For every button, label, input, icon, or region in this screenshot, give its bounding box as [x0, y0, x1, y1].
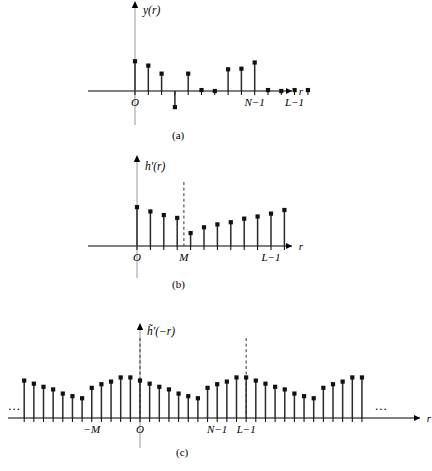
stem-marker	[321, 386, 325, 390]
stem-marker	[282, 208, 286, 212]
stem-marker	[146, 63, 150, 67]
stem-marker	[148, 382, 152, 386]
stem-marker	[279, 89, 283, 93]
x-axis-arrow	[286, 88, 292, 94]
y-axis-arrow	[137, 323, 143, 330]
stem-marker	[331, 382, 335, 386]
stem-marker	[160, 72, 164, 76]
stem-marker	[283, 387, 287, 391]
y-axis-arrow	[134, 155, 140, 162]
stem-marker	[119, 375, 123, 379]
stem-marker	[135, 205, 139, 209]
stem-marker	[177, 391, 181, 395]
stem-marker	[51, 387, 55, 391]
stem-marker	[173, 105, 177, 109]
stem-marker	[41, 385, 45, 389]
stem-marker	[80, 396, 84, 400]
stem-marker	[167, 387, 171, 391]
axis-tick-label: L−1	[236, 423, 256, 435]
stem-marker	[213, 89, 217, 93]
stem-marker	[61, 391, 65, 395]
y-axis-label: y(r)	[142, 4, 160, 17]
panel-a: ry(r)ON−1L−1 (a)	[0, 0, 432, 150]
stem-marker	[90, 386, 94, 390]
stem-marker	[254, 378, 258, 382]
panel-b-caption: (b)	[172, 278, 185, 290]
stem-marker	[234, 375, 238, 379]
stem-marker	[242, 217, 246, 221]
stem-marker	[128, 375, 132, 379]
stem-marker	[253, 60, 257, 64]
y-axis-label: h̃′(−r)	[147, 324, 175, 338]
stem-marker	[186, 394, 190, 398]
y-axis-label: h′(r)	[145, 160, 166, 173]
axis-tick-label: O	[136, 423, 144, 435]
panel-c: rh̃′(−r)−MON−1L−1...... (c)	[0, 298, 432, 471]
axis-tick-label: O	[133, 251, 141, 263]
panel-c-plot: rh̃′(−r)−MON−1L−1......	[0, 298, 432, 471]
stem-marker	[186, 72, 190, 76]
stem-marker	[269, 212, 273, 216]
stem-marker	[306, 88, 310, 92]
x-axis-label: r	[299, 240, 304, 252]
x-axis-arrow	[286, 243, 292, 249]
stem-marker	[215, 382, 219, 386]
stem-marker	[341, 380, 345, 384]
stem-marker	[302, 394, 306, 398]
y-axis-arrow	[132, 1, 138, 8]
stem-marker	[196, 396, 200, 400]
stem-marker	[226, 67, 230, 71]
stem-marker	[263, 382, 267, 386]
stem-marker	[70, 394, 74, 398]
x-axis-arrow	[414, 415, 420, 421]
stem-marker	[266, 88, 270, 92]
stem-marker	[162, 213, 166, 217]
stem-marker	[138, 378, 142, 382]
axis-tick-label: N−1	[244, 96, 265, 108]
stem-marker	[32, 382, 36, 386]
stem-marker	[229, 220, 233, 224]
stem-marker	[273, 385, 277, 389]
panel-b: rh′(r)OML−1 (b)	[0, 150, 432, 298]
stem-marker	[109, 380, 113, 384]
stem-marker	[148, 209, 152, 213]
stem-marker	[256, 214, 260, 218]
axis-tick-label: N−1	[206, 423, 227, 435]
stem-marker	[157, 385, 161, 389]
stem-marker	[293, 88, 297, 92]
stem-marker	[239, 67, 243, 71]
panel-a-plot: ry(r)ON−1L−1	[0, 0, 432, 150]
stem-marker	[22, 378, 26, 382]
axis-tick-label: O	[131, 96, 139, 108]
stem-marker	[360, 375, 364, 379]
stem-marker	[205, 386, 209, 390]
axis-tick-label: L−1	[260, 251, 280, 263]
axis-tick-label: L−1	[284, 96, 304, 108]
stem-marker	[225, 380, 229, 384]
stem-marker	[350, 375, 354, 379]
panel-c-caption: (c)	[176, 446, 188, 458]
stem-marker	[175, 216, 179, 220]
stem-marker	[189, 231, 193, 235]
stem-marker	[292, 391, 296, 395]
axis-tick-label: M	[178, 251, 189, 263]
stem-marker	[99, 382, 103, 386]
stem-marker	[133, 59, 137, 63]
ellipsis: ...	[8, 398, 21, 413]
stem-marker	[312, 396, 316, 400]
panel-a-caption: (a)	[172, 129, 184, 141]
panel-b-plot: rh′(r)OML−1	[0, 150, 432, 298]
stem-marker	[202, 225, 206, 229]
stem-marker	[215, 222, 219, 226]
stem-marker	[199, 88, 203, 92]
x-axis-label: r	[427, 412, 432, 424]
axis-tick-label: −M	[83, 423, 100, 435]
stem-marker	[244, 375, 248, 379]
ellipsis: ...	[375, 398, 388, 413]
